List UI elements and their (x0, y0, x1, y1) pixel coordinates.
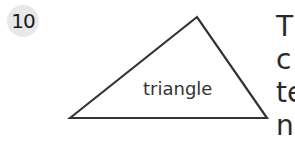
text-line-2: c (276, 43, 291, 76)
shape-label: triangle (143, 78, 212, 99)
text-line-3: te (276, 76, 295, 109)
truncated-question-text: T c te n (276, 10, 295, 142)
text-line-1: T (276, 10, 293, 43)
text-line-4: n (276, 109, 294, 142)
